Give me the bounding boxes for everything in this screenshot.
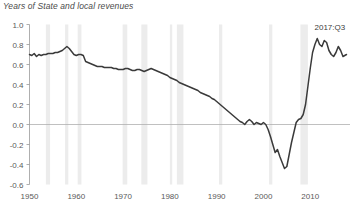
data-series-line: [30, 39, 347, 169]
series-path: [30, 39, 347, 169]
y-tick-label: -0.4: [10, 161, 24, 170]
x-tick-label: 2000: [255, 192, 273, 201]
recession-band: [269, 25, 272, 185]
y-tick-label: 0.6: [12, 61, 24, 70]
x-tick-label: 1980: [161, 192, 179, 201]
recession-band: [123, 25, 128, 185]
line-chart-plot: 1.00.80.60.40.20.0-0.2-0.4-0.6 195019601…: [0, 0, 351, 210]
annotation-label: 2017:Q3: [315, 23, 346, 32]
x-tick-label: 1970: [114, 192, 132, 201]
y-tick-label: -0.6: [10, 181, 24, 190]
y-tick-label: 0.2: [12, 101, 24, 110]
recession-band: [78, 25, 82, 185]
y-tick-labels: 1.00.80.60.40.20.0-0.2-0.4-0.6: [10, 21, 24, 190]
x-tick-label: 1950: [21, 192, 39, 201]
recession-band: [170, 25, 172, 185]
y-tick-label: 1.0: [12, 21, 24, 30]
y-axis: [27, 25, 30, 185]
recession-band: [300, 25, 307, 185]
y-tick-label: 0.8: [12, 41, 24, 50]
chart-container: Years of State and local revenues 1.00.8…: [0, 0, 351, 210]
y-tick-label: 0.0: [12, 121, 24, 130]
recession-band: [141, 25, 147, 185]
x-tick-labels: 1950196019701980199020002010: [21, 192, 320, 201]
recession-bands: [46, 25, 308, 185]
recession-band: [177, 25, 184, 185]
chart-annotations: 2017:Q3: [315, 23, 346, 32]
y-tick-label: 0.4: [12, 81, 24, 90]
x-tick-label: 1990: [208, 192, 226, 201]
y-tick-label: -0.2: [10, 141, 24, 150]
recession-band: [46, 25, 50, 185]
x-tick-label: 2010: [301, 192, 319, 201]
x-tick-label: 1960: [67, 192, 85, 201]
